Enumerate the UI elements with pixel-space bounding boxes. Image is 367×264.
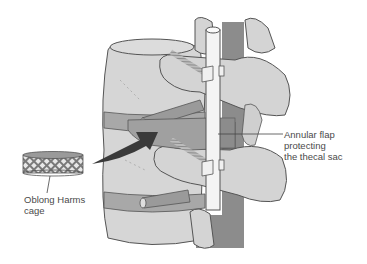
harms-cage-icon	[23, 152, 83, 177]
cage-leader-line	[47, 176, 50, 193]
annular-label-line-3: the thecal sac	[284, 151, 343, 162]
cage-label-line-1: Oblong Harms	[24, 194, 85, 205]
annular-label-line-1: Annular flap	[284, 129, 343, 140]
annular-flap-label: Annular flap protecting the thecal sac	[284, 129, 343, 162]
annular-label-line-2: protecting	[284, 140, 343, 151]
harms-cage-label: Oblong Harms cage	[24, 194, 85, 216]
cage-label-line-2: cage	[24, 205, 85, 216]
